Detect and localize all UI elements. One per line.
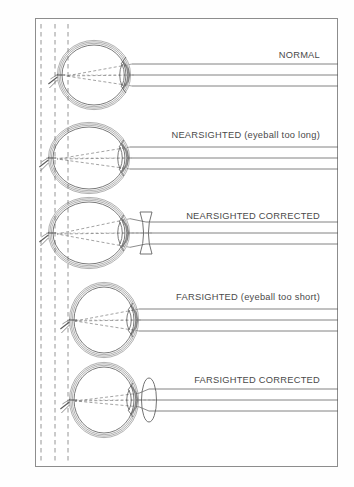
internal-ray-1 (66, 64, 132, 76)
eye-diagram-canvas (0, 0, 354, 487)
optic-nerve (60, 402, 69, 409)
lens-to-eye-ray-1 (139, 389, 149, 393)
internal-ray-3 (75, 401, 139, 407)
label-farsighted-corrected: FARSIGHTED CORRECTED (160, 375, 320, 385)
internal-ray-2 (66, 75, 132, 76)
lens-to-eye-ray-3 (139, 407, 149, 411)
label-farsighted: FARSIGHTED (eyeball too short) (160, 292, 320, 302)
optic-nerve-branch (49, 80, 57, 88)
label-normal: NORMAL (160, 50, 320, 60)
label-nearsighted: NEARSIGHTED (eyeball too long) (160, 130, 320, 140)
lens-to-eye-ray-3 (130, 244, 146, 247)
eye-row-farsighted-corrected (60, 362, 338, 437)
eye-refraction-figure: NORMAL NEARSIGHTED (eyeball too long) NE… (0, 0, 354, 487)
optic-nerve-branch (40, 238, 48, 246)
optic-nerve-branch (40, 163, 48, 171)
optic-nerve (48, 77, 57, 84)
internal-ray-2 (75, 320, 139, 321)
eye-row-nearsighted-corrected (39, 197, 338, 268)
lens-to-eye-ray-1 (130, 219, 146, 222)
optic-nerve (60, 322, 69, 329)
label-nearsighted-corrected: NEARSIGHTED CORRECTED (160, 211, 320, 221)
eyeball-coat-1 (62, 45, 126, 105)
internal-ray-1 (75, 393, 139, 401)
internal-ray-3 (66, 76, 132, 86)
